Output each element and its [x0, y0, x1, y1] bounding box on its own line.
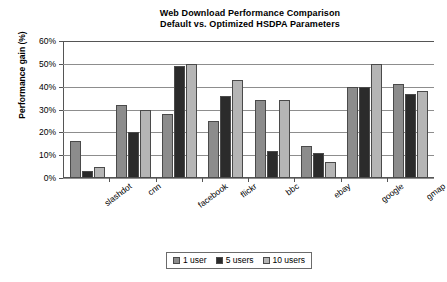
- bar-group: [203, 41, 249, 178]
- bar: [162, 114, 173, 178]
- bar: [116, 105, 127, 178]
- bar-group: [295, 41, 341, 178]
- x-axis-label: ebay: [331, 181, 352, 200]
- bar: [301, 146, 312, 178]
- bar-group: [388, 41, 434, 178]
- bar: [325, 162, 336, 178]
- bar: [220, 96, 231, 178]
- bar: [70, 141, 81, 178]
- y-axis-tick-label: 0%: [44, 174, 56, 183]
- legend-item: 10 users: [263, 255, 306, 265]
- bar: [208, 121, 219, 178]
- bar: [128, 132, 139, 178]
- y-axis-tick-label: 20%: [39, 128, 56, 137]
- chart-container: Web Download Performance Comparison Defa…: [0, 0, 447, 282]
- x-axis-label: cnn: [145, 181, 162, 197]
- chart-title-line-2: Default vs. Optimized HSDPA Parameters: [60, 19, 440, 30]
- legend-label: 10 users: [273, 255, 306, 265]
- bar: [393, 84, 404, 178]
- legend-item: 1 user: [173, 255, 207, 265]
- bar: [174, 66, 185, 178]
- bar: [267, 151, 278, 178]
- legend-label: 1 user: [183, 255, 207, 265]
- x-axis-label: gmap: [424, 181, 447, 202]
- legend-label: 5 users: [226, 255, 254, 265]
- bar-groups: [64, 41, 434, 178]
- x-axis-label: bbc: [284, 181, 301, 197]
- bar: [255, 100, 266, 178]
- bar: [313, 153, 324, 178]
- y-axis-tick: [59, 155, 63, 156]
- chart-title: Web Download Performance Comparison Defa…: [60, 8, 440, 30]
- y-axis-tick-label: 60%: [39, 37, 56, 46]
- y-axis-tick: [59, 64, 63, 65]
- y-axis-tick-label: 10%: [39, 151, 56, 160]
- x-axis-label: google: [379, 181, 405, 204]
- y-axis-tick: [59, 87, 63, 88]
- y-axis-title: Performance gain (%): [17, 15, 27, 135]
- x-axis-label: slashdot: [103, 181, 134, 208]
- x-axis-labels: slashdotcnnfacebookflickrbbcebaygooglegm…: [63, 178, 434, 233]
- chart-title-line-1: Web Download Performance Comparison: [60, 8, 440, 19]
- legend-swatch: [263, 257, 270, 264]
- bar: [186, 64, 197, 178]
- bar: [371, 64, 382, 178]
- legend-swatch: [173, 257, 180, 264]
- bar: [279, 100, 290, 178]
- bar-group: [110, 41, 156, 178]
- x-axis-label: flickr: [239, 181, 259, 200]
- legend-item: 5 users: [216, 255, 254, 265]
- bar-group: [249, 41, 295, 178]
- bar: [82, 171, 93, 178]
- bar-group: [157, 41, 203, 178]
- bar-group: [64, 41, 110, 178]
- bar-group: [342, 41, 388, 178]
- y-axis-tick: [59, 110, 63, 111]
- y-axis-tick-label: 50%: [39, 60, 56, 69]
- bar: [94, 167, 105, 178]
- bar: [140, 110, 151, 179]
- bar: [405, 94, 416, 178]
- y-axis-tick-label: 30%: [39, 105, 56, 114]
- plot-area: 0%10%20%30%40%50%60%: [63, 41, 434, 178]
- bar: [232, 80, 243, 178]
- bar: [359, 87, 370, 178]
- chart-legend: 1 user5 users10 users: [166, 252, 312, 269]
- bar: [347, 87, 358, 178]
- legend-swatch: [216, 257, 223, 264]
- x-axis-label: facebook: [196, 181, 230, 210]
- y-axis-tick: [59, 41, 63, 42]
- bar: [417, 91, 428, 178]
- y-axis-tick: [59, 132, 63, 133]
- y-axis-tick-label: 40%: [39, 82, 56, 91]
